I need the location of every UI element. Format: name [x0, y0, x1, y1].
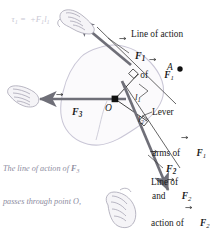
caption-f3-zero-torque: The line of action of F3 passes through …: [3, 142, 121, 230]
equation-equals: = +: [18, 14, 36, 24]
vector-arrow-accent-callout-lever-f1: [181, 135, 189, 139]
pivot-marker: [112, 96, 119, 103]
vector-arrow-accent-f3: [56, 92, 64, 96]
torque-equation: τ1 = +F1l1: [3, 5, 50, 35]
vector-arrow-accent-callout-f1: [149, 57, 157, 61]
vector-label-f3: F3: [47, 84, 82, 131]
vector-label-f3-sub: 3: [79, 111, 83, 119]
lever-arm-label-l2: l2: [129, 104, 144, 135]
callout-lever-line1: Lever: [152, 107, 206, 117]
vector-arrow-accent-callout-f2: [185, 205, 193, 209]
caption-line-2: passes through point O,: [3, 197, 121, 208]
torque-diagram: τ1 = +F1l1 F1 F2 F3 O A l1 l2 Line: [0, 0, 212, 230]
callout-f2-line1: Line of: [151, 177, 210, 187]
pivot-label-o: O: [105, 103, 112, 114]
callout-f2-line2: action of F2: [151, 208, 210, 230]
equation-arm-sub: 1: [47, 17, 50, 24]
hand-pulling-f3: [8, 86, 39, 107]
lever-arm-l2-sub: 2: [141, 118, 144, 125]
caption-line-1: The line of action of F3: [3, 164, 121, 176]
hand-pulling-f1: [58, 10, 95, 34]
vector-label-f3-symbol: F: [72, 106, 79, 117]
vector-arrow-accent-f1: [119, 36, 127, 40]
callout-f1-line1: Line of action: [131, 29, 183, 39]
callout-line-of-action-f2: Line of action of F2: [151, 156, 210, 230]
callout-f1-line2: of F1: [131, 60, 183, 82]
